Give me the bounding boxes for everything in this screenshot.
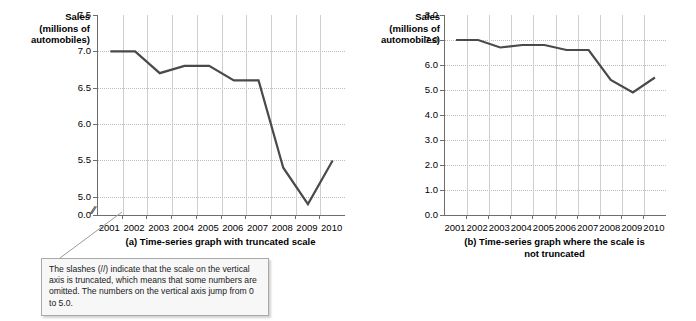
y-tick-label: 3.0 xyxy=(410,134,438,145)
x-tick-label: 2007 xyxy=(577,222,599,233)
x-tick-label: 2005 xyxy=(196,222,221,233)
x-tick-mark xyxy=(221,215,222,219)
y-tick-mark xyxy=(440,215,444,216)
x-tick-mark xyxy=(532,215,533,219)
y-tick-label: 1.0 xyxy=(410,184,438,195)
x-tick-label: 2005 xyxy=(532,222,554,233)
y-tick-mark xyxy=(440,40,444,41)
y-tick-label: 5.5 xyxy=(63,154,91,165)
data-series-line xyxy=(98,15,345,215)
x-tick-mark xyxy=(196,215,197,219)
chart-panel-not-truncated: Sales (millions of automobiles) 0.01.02.… xyxy=(360,0,696,321)
x-tick-mark xyxy=(245,215,246,219)
x-tick-label: 2009 xyxy=(621,222,643,233)
x-tick-label: 2003 xyxy=(146,222,171,233)
y-tick-mark xyxy=(93,15,97,16)
plot-area-truncated xyxy=(97,15,345,216)
x-tick-mark xyxy=(510,215,511,219)
x-tick-label: 2007 xyxy=(245,222,270,233)
y-tick-label: 8.0 xyxy=(410,9,438,20)
y-tick-label: 6.0 xyxy=(410,59,438,70)
y-tick-label: 6.5 xyxy=(63,82,91,93)
x-tick-label: 2003 xyxy=(488,222,510,233)
y-tick-mark xyxy=(440,65,444,66)
caption-a: (a) Time-series graph with truncated sca… xyxy=(97,236,344,248)
y-tick-mark xyxy=(440,190,444,191)
callout-leader-line xyxy=(60,212,124,260)
x-tick-mark xyxy=(555,215,556,219)
y-tick-label: 2.0 xyxy=(410,159,438,170)
caption-a-line1: (a) Time-series graph with truncated sca… xyxy=(126,236,316,247)
y-tick-mark xyxy=(440,15,444,16)
y-axis-title-line2: (millions of xyxy=(4,23,90,35)
y-tick-mark xyxy=(440,90,444,91)
y-tick-label: 7.0 xyxy=(410,34,438,45)
plot-area-not-truncated xyxy=(444,15,666,216)
callout-text: The slashes (//) indicate that the scale… xyxy=(49,264,257,308)
x-tick-mark xyxy=(621,215,622,219)
x-tick-mark xyxy=(577,215,578,219)
x-tick-mark xyxy=(466,215,467,219)
y-tick-label: 7.5 xyxy=(63,9,91,20)
data-series-line xyxy=(445,15,666,215)
y-tick-label: 0.0 xyxy=(410,209,438,220)
y-tick-label: 5.0 xyxy=(410,84,438,95)
x-tick-label: 2010 xyxy=(643,222,665,233)
y-tick-mark xyxy=(93,160,97,161)
y-tick-mark xyxy=(440,165,444,166)
x-tick-mark xyxy=(295,215,296,219)
y-tick-mark xyxy=(93,88,97,89)
y-axis-title-line3: automobiles) xyxy=(4,34,90,46)
x-tick-label: 2009 xyxy=(295,222,320,233)
x-tick-mark xyxy=(146,215,147,219)
x-tick-mark xyxy=(599,215,600,219)
y-tick-mark xyxy=(440,140,444,141)
x-tick-label: 2004 xyxy=(510,222,532,233)
x-tick-label: 2002 xyxy=(466,222,488,233)
x-tick-label: 2004 xyxy=(171,222,196,233)
x-tick-label: 2008 xyxy=(599,222,621,233)
x-tick-mark xyxy=(270,215,271,219)
y-tick-label: 5.0 xyxy=(63,191,91,202)
x-tick-mark xyxy=(488,215,489,219)
caption-b: (b) Time-series graph where the scale is… xyxy=(444,236,665,260)
x-tick-mark xyxy=(643,215,644,219)
x-tick-label: 2002 xyxy=(122,222,147,233)
y-tick-mark xyxy=(93,197,97,198)
x-tick-label: 2006 xyxy=(221,222,246,233)
x-tick-label: 2010 xyxy=(319,222,344,233)
y-axis-title-line2: (millions of xyxy=(360,23,440,35)
caption-b-line1: (b) Time-series graph where the scale is xyxy=(464,236,644,247)
x-tick-mark xyxy=(171,215,172,219)
caption-b-line2: not truncated xyxy=(524,248,585,259)
y-tick-mark xyxy=(93,51,97,52)
y-tick-mark xyxy=(93,124,97,125)
x-tick-mark xyxy=(319,215,320,219)
callout-box: The slashes (//) indicate that the scale… xyxy=(41,258,269,316)
y-tick-label: 6.0 xyxy=(63,118,91,129)
y-tick-label: 7.0 xyxy=(63,45,91,56)
x-tick-label: 2001 xyxy=(444,222,466,233)
x-tick-label: 2006 xyxy=(555,222,577,233)
y-tick-label: 4.0 xyxy=(410,109,438,120)
x-tick-label: 2008 xyxy=(270,222,295,233)
y-tick-mark xyxy=(440,115,444,116)
